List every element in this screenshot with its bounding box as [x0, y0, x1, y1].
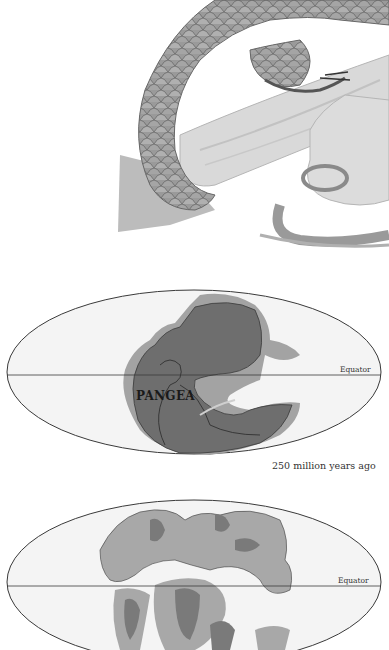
later-continents-map: Equator	[0, 490, 389, 627]
tail-branch-drawing	[0, 0, 389, 270]
later-continents-map-drawing	[0, 490, 389, 650]
equator-label: Equator	[340, 365, 371, 374]
equator-label: Equator	[338, 576, 369, 585]
pangea-label: PANGEA	[136, 389, 195, 403]
map-caption: 250 million years ago	[272, 460, 376, 471]
reptile-tail-illustration	[0, 0, 389, 270]
pangea-map: Equator PANGEA 250 million years ago	[0, 285, 389, 465]
pangea-map-drawing	[0, 285, 389, 465]
